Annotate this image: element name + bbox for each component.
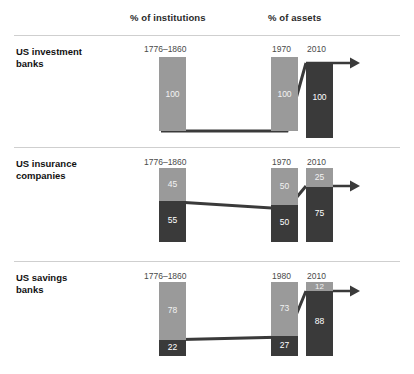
bar-insurance-1970[interactable]: 50 50 <box>271 168 298 242</box>
bar-value-top: 100 <box>271 90 298 99</box>
bar-value-top: 50 <box>271 182 298 191</box>
bar-insurance-1776-1860[interactable]: 45 55 <box>159 168 186 242</box>
chart-row-insurance-companies: US insurance companies 1776–1860 45 55 1… <box>0 147 414 261</box>
year-label: 1776–1860 <box>144 157 187 167</box>
bar-insurance-2010[interactable]: 25 75 <box>306 168 333 242</box>
bar-savings-2010[interactable]: 12 88 <box>306 282 333 356</box>
plot-area-savings-banks: 1776–1860 78 22 1980 73 27 2010 12 <box>0 261 414 374</box>
bar-value-bottom: 50 <box>271 218 298 227</box>
bar-value-top: 25 <box>306 173 333 182</box>
bar-value-bottom: 100 <box>306 93 333 102</box>
bar-value-top: 45 <box>159 180 186 189</box>
bar-value-bottom: 27 <box>271 341 298 350</box>
year-label: 2010 <box>307 271 326 281</box>
year-label: 1970 <box>272 157 291 167</box>
chart-row-savings-banks: US savings banks 1776–1860 78 22 1980 <box>0 261 414 374</box>
bar-investment-1970[interactable]: 100 <box>271 57 298 131</box>
bar-value-top: 78 <box>159 306 186 315</box>
year-label: 1970 <box>272 44 291 54</box>
column-header-assets: % of assets <box>268 12 321 23</box>
trend-connector-savings-banks <box>0 261 414 374</box>
plot-area-insurance-companies: 1776–1860 45 55 1970 50 50 2010 25 <box>0 147 414 261</box>
bar-value-top: 100 <box>159 90 186 99</box>
chart-root: % of institutions % of assets US investm… <box>0 0 414 374</box>
chart-row-investment-banks: US investment banks 1776–1860 100 1970 1… <box>0 35 414 147</box>
bar-value-bottom: 22 <box>159 343 186 352</box>
bar-savings-1776-1860[interactable]: 78 22 <box>159 282 186 356</box>
year-label: 1776–1860 <box>144 271 187 281</box>
year-label: 2010 <box>307 44 326 54</box>
bar-savings-1980[interactable]: 73 27 <box>271 282 298 356</box>
bar-investment-1776-1860[interactable]: 100 <box>159 57 186 131</box>
bar-value-bottom: 55 <box>159 216 186 225</box>
plot-area-investment-banks: 1776–1860 100 1970 100 2010 100 <box>0 35 414 147</box>
column-header-institutions: % of institutions <box>130 12 206 23</box>
bar-value-bottom: 88 <box>306 317 333 326</box>
bar-value-bottom: 75 <box>306 209 333 218</box>
bar-value-top: 12 <box>306 283 333 291</box>
bar-value-top: 73 <box>271 304 298 313</box>
year-label: 2010 <box>307 157 326 167</box>
year-label: 1980 <box>272 271 291 281</box>
trend-connector-insurance-companies <box>0 147 414 261</box>
bar-investment-2010[interactable]: 100 <box>306 63 333 138</box>
trend-connector-investment-banks <box>0 35 414 147</box>
year-label: 1776–1860 <box>144 44 187 54</box>
